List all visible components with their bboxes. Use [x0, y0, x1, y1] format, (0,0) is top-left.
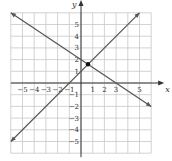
y-axis-label: y — [71, 0, 77, 9]
y-tick-label: −1 — [69, 91, 79, 99]
x-tick-label: −2 — [52, 86, 62, 94]
intersection-point — [86, 62, 90, 66]
y-tick-label: −3 — [69, 115, 79, 123]
y-tick-label: −4 — [69, 126, 80, 134]
y-tick-label: −2 — [69, 103, 79, 111]
line-arrow-icon — [11, 13, 16, 18]
y-tick-label: 5 — [75, 21, 79, 29]
x-axis-label: x — [165, 85, 170, 94]
x-tick-label: −4 — [29, 86, 40, 94]
line-arrow-icon — [146, 102, 151, 107]
x-tick-label: −3 — [41, 86, 51, 94]
x-tick-label: 3 — [114, 86, 118, 94]
x-tick-label: 2 — [102, 86, 106, 94]
y-axis-arrow-icon — [79, 0, 84, 6]
x-tick-label: −5 — [17, 86, 27, 94]
x-tick-label: 5 — [137, 86, 141, 94]
x-axis-arrow-icon — [158, 81, 164, 86]
y-tick-label: 4 — [75, 33, 80, 41]
y-tick-label: 3 — [75, 44, 79, 52]
coordinate-plane-chart: xy−5−4−3−2−1123554321−1−2−3−4−5 — [0, 0, 172, 161]
y-tick-label: −5 — [69, 138, 79, 146]
x-tick-label: 1 — [90, 86, 94, 94]
